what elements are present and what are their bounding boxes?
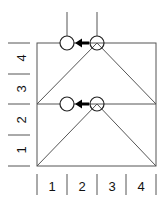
- left-axis-label-1: 1: [14, 146, 29, 153]
- arrow-left-icon: [75, 100, 89, 109]
- bottom-axis-label-3: 3: [108, 179, 115, 194]
- arrow-left-icon: [75, 39, 89, 48]
- top-layer-triangle: [37, 43, 156, 104]
- bottom-axis-label-4: 4: [137, 179, 144, 194]
- bottom-axis-label-1: 1: [48, 179, 55, 194]
- circle-node-icon: [60, 36, 74, 50]
- diagram-canvas: 4 3 2 1 1 2 3 4: [0, 0, 167, 200]
- left-axis-label-2: 2: [14, 116, 29, 123]
- circle-node-icon: [60, 97, 74, 111]
- top-leads: [67, 12, 97, 36]
- left-axis-label-3: 3: [14, 85, 29, 92]
- bottom-layer-triangle: [37, 104, 156, 166]
- left-axis-label-4: 4: [14, 54, 29, 61]
- bottom-axis-label-2: 2: [78, 179, 85, 194]
